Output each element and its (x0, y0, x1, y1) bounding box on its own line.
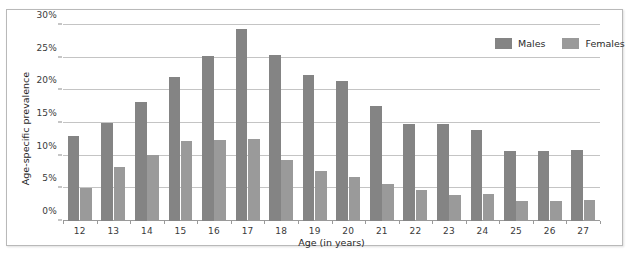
bar-females-age-12[interactable] (80, 188, 92, 221)
x-tick-mark (264, 221, 265, 224)
bar-females-age-17[interactable] (248, 139, 260, 221)
legend-label-males: Males (518, 38, 545, 49)
x-tick-label-18: 18 (264, 226, 298, 236)
x-tick-label-13: 13 (97, 226, 131, 236)
x-tick-label-27: 27 (566, 226, 600, 236)
bar-females-age-24[interactable] (483, 194, 495, 221)
x-tick-mark (164, 221, 165, 224)
bar-group: 24 (466, 25, 500, 221)
bar-females-age-23[interactable] (449, 195, 461, 221)
x-tick-label-14: 14 (130, 226, 164, 236)
y-tick-mark (58, 89, 62, 90)
y-tick-label: 5% (42, 173, 57, 183)
x-tick-mark (332, 221, 333, 224)
bar-group: 23 (432, 25, 466, 221)
y-tick-label: 15% (36, 108, 57, 118)
bar-group: 20 (332, 25, 366, 221)
y-tick-label: 0% (42, 206, 57, 216)
bar-males-age-16[interactable] (202, 56, 214, 221)
x-tick-mark (466, 221, 467, 224)
bar-group: 16 (197, 25, 231, 221)
y-tick-mark (58, 154, 62, 155)
bar-females-age-27[interactable] (584, 200, 596, 221)
y-tick-label: 20% (36, 75, 57, 85)
x-tick-label-20: 20 (332, 226, 366, 236)
bar-males-age-21[interactable] (370, 106, 382, 221)
bar-group: 15 (164, 25, 198, 221)
bar-group: 19 (298, 25, 332, 221)
bar-males-age-13[interactable] (101, 123, 113, 221)
bar-females-age-22[interactable] (416, 190, 428, 221)
x-tick-label-19: 19 (298, 226, 332, 236)
bar-males-age-22[interactable] (403, 124, 415, 221)
x-tick-label-22: 22 (399, 226, 433, 236)
bar-males-age-23[interactable] (437, 124, 449, 221)
x-tick-label-25: 25 (499, 226, 533, 236)
bar-group: 22 (399, 25, 433, 221)
y-axis-title: Age-specific prevalence (18, 10, 34, 247)
bar-group: 25 (499, 25, 533, 221)
x-tick-label-21: 21 (365, 226, 399, 236)
x-tick-mark (231, 221, 232, 224)
bar-females-age-25[interactable] (516, 201, 528, 221)
y-tick-label: 10% (36, 141, 57, 151)
y-axis-title-text: Age-specific prevalence (21, 72, 32, 185)
bar-males-age-27[interactable] (571, 150, 583, 221)
bar-group: 26 (533, 25, 567, 221)
bar-females-age-20[interactable] (349, 177, 361, 221)
x-tick-label-16: 16 (197, 226, 231, 236)
x-tick-label-23: 23 (432, 226, 466, 236)
bar-males-age-17[interactable] (236, 29, 248, 221)
bar-males-age-14[interactable] (135, 102, 147, 221)
x-tick-label-24: 24 (466, 226, 500, 236)
x-tick-label-26: 26 (533, 226, 567, 236)
x-tick-mark (197, 221, 198, 224)
bar-group: 21 (365, 25, 399, 221)
x-tick-mark (600, 221, 601, 224)
bar-females-age-16[interactable] (214, 140, 226, 221)
x-tick-mark (130, 221, 131, 224)
legend-item-females[interactable]: Females (562, 38, 624, 49)
bar-males-age-26[interactable] (538, 151, 550, 221)
bar-group: 13 (97, 25, 131, 221)
x-tick-label-17: 17 (231, 226, 265, 236)
bar-females-age-19[interactable] (315, 171, 327, 221)
bar-females-age-21[interactable] (382, 184, 394, 221)
bar-males-age-20[interactable] (336, 81, 348, 221)
bar-females-age-14[interactable] (147, 155, 159, 221)
x-tick-mark (432, 221, 433, 224)
bar-females-age-15[interactable] (181, 141, 193, 221)
x-tick-label-12: 12 (63, 226, 97, 236)
x-tick-mark (399, 221, 400, 224)
bar-group: 12 (63, 25, 97, 221)
x-tick-mark (533, 221, 534, 224)
chart-frame: Age-specific prevalence 0%5%10%15%20%25%… (6, 9, 623, 246)
bar-males-age-19[interactable] (303, 75, 315, 221)
x-tick-mark (499, 221, 500, 224)
bar-females-age-18[interactable] (281, 160, 293, 221)
bar-males-age-18[interactable] (269, 55, 281, 221)
x-axis-title: Age (in years) (63, 237, 600, 248)
legend-item-males[interactable]: Males (495, 38, 545, 49)
legend-swatch-males-icon (495, 38, 512, 49)
x-tick-mark (566, 221, 567, 224)
bar-females-age-26[interactable] (550, 201, 562, 221)
bar-males-age-15[interactable] (169, 77, 181, 221)
y-tick-label: 30% (36, 10, 57, 20)
y-tick-mark (58, 187, 62, 188)
legend-label-females: Females (585, 38, 624, 49)
bar-females-age-13[interactable] (114, 167, 126, 221)
x-tick-mark (97, 221, 98, 224)
bar-males-age-25[interactable] (504, 151, 516, 221)
x-tick-mark (365, 221, 366, 224)
bar-group: 14 (130, 25, 164, 221)
y-tick-mark (58, 122, 62, 123)
x-tick-mark (298, 221, 299, 224)
y-tick-mark (58, 56, 62, 57)
bar-males-age-24[interactable] (471, 130, 483, 221)
y-tick-mark (58, 24, 62, 25)
plot-area: 0%5%10%15%20%25%30% 12131415161718192021… (63, 25, 600, 221)
bar-males-age-12[interactable] (68, 136, 80, 221)
chart-legend: Males Females (495, 38, 625, 49)
bars-layer: 12131415161718192021222324252627 (63, 25, 600, 221)
